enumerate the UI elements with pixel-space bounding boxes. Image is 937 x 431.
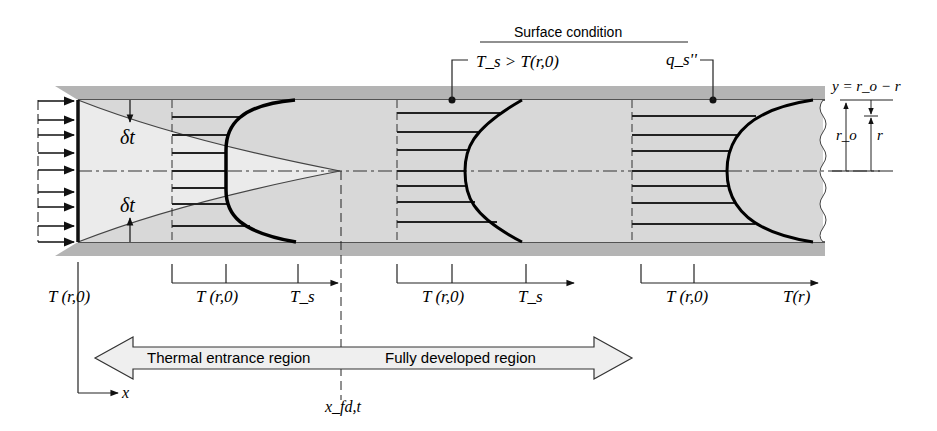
delta-label-bottom: δt bbox=[120, 194, 135, 216]
developed-region-label: Fully developed region bbox=[385, 349, 536, 366]
constant-temperature-label: T_s > T(r,0) bbox=[476, 52, 559, 71]
profile3-temp-label: T(r) bbox=[783, 287, 811, 306]
tube-diagram: δt δt bbox=[0, 0, 937, 431]
delta-label-top: δt bbox=[120, 126, 135, 148]
r-label: r bbox=[877, 127, 883, 143]
surface-condition-heading: Surface condition bbox=[514, 24, 622, 40]
x-fd-label: x_fd,t bbox=[324, 398, 362, 416]
entrance-region-label: Thermal entrance region bbox=[147, 349, 310, 366]
profile2-inlet-label: T (r,0) bbox=[422, 287, 465, 306]
heat-flux-label: q_s'' bbox=[666, 50, 697, 69]
inlet-velocity-arrows bbox=[38, 100, 78, 242]
profile2-surface-label: T_s bbox=[518, 287, 543, 306]
x-axis-label: x bbox=[121, 384, 129, 401]
inlet-temp-label: T (r,0) bbox=[48, 287, 91, 306]
profile-axes bbox=[78, 262, 818, 283]
y-definition-label: y = r_o − r bbox=[830, 78, 901, 94]
profile1-surface-label: T_s bbox=[290, 287, 315, 306]
profile3-inlet-label: T (r,0) bbox=[666, 287, 709, 306]
r-o-label: r_o bbox=[836, 127, 857, 143]
profile1-inlet-label: T (r,0) bbox=[196, 287, 239, 306]
